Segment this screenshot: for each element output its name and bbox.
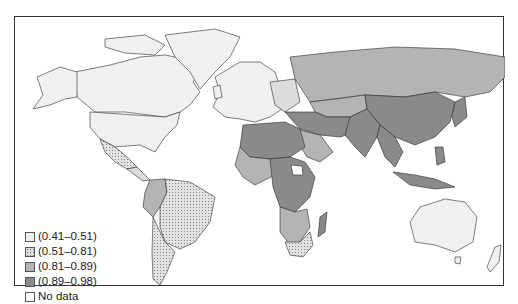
legend-item: (0.81–0.89): [25, 259, 97, 274]
region-russia: [290, 47, 505, 102]
legend-item: No data: [25, 289, 97, 304]
legend-label: (0.51–0.81): [38, 244, 97, 259]
map-legend: (0.41–0.51) (0.51–0.81) (0.81–0.89) (0.8…: [25, 229, 97, 304]
legend-label: (0.81–0.89): [38, 259, 97, 274]
legend-item: (0.89–0.98): [25, 274, 97, 289]
region-south-sudan: [291, 165, 303, 175]
legend-swatch-icon: [25, 277, 35, 287]
region-indonesia: [393, 172, 455, 189]
region-north-africa: [240, 122, 305, 159]
legend-swatch-icon: [25, 232, 35, 242]
map-frame: (0.41–0.51) (0.51–0.81) (0.81–0.89) (0.8…: [14, 16, 504, 286]
region-new-zealand: [487, 245, 501, 272]
legend-item: (0.41–0.51): [25, 229, 97, 244]
region-philippines: [435, 147, 445, 165]
region-central-america: [127, 167, 150, 181]
region-alaska: [33, 67, 77, 109]
legend-label: No data: [38, 289, 78, 304]
legend-label: (0.41–0.51): [38, 229, 97, 244]
region-canada: [75, 55, 200, 117]
region-tasmania: [455, 257, 461, 264]
region-brazil: [160, 179, 215, 249]
legend-swatch-icon: [25, 247, 35, 257]
region-arctic-islands: [105, 35, 165, 55]
legend-label: (0.89–0.98): [38, 274, 97, 289]
region-uk: [213, 85, 222, 99]
legend-item: (0.51–0.81): [25, 244, 97, 259]
region-madagascar: [318, 212, 327, 237]
legend-swatch-icon: [25, 292, 35, 302]
region-australia: [410, 199, 477, 252]
legend-swatch-icon: [25, 262, 35, 272]
